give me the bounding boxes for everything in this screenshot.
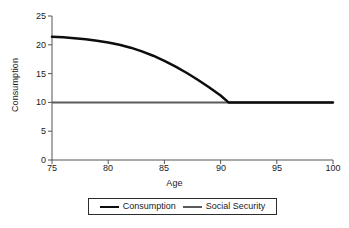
series-line-consumption — [52, 37, 333, 103]
legend-label-social-security: Social Security — [206, 202, 266, 211]
chart-legend: Consumption Social Security — [88, 198, 277, 215]
legend-swatch-consumption — [100, 206, 119, 208]
legend-item-social-security: Social Security — [183, 202, 266, 211]
plot-area — [0, 0, 349, 228]
legend-item-consumption: Consumption — [100, 202, 176, 211]
x-axis-ticks — [52, 160, 333, 164]
chart-container: Consumption Age 25 20 15 10 5 0 75 80 85… — [0, 0, 349, 228]
legend-label-consumption: Consumption — [123, 202, 176, 211]
legend-swatch-social-security — [183, 206, 202, 208]
